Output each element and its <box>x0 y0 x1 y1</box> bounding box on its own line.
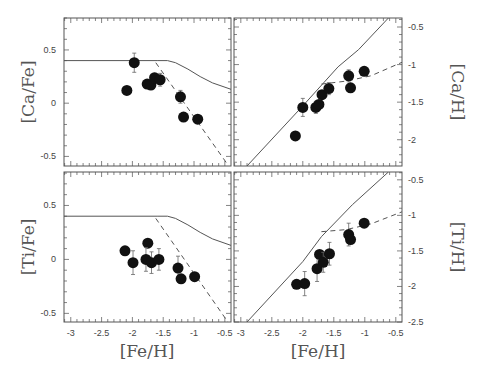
data-point <box>359 66 370 77</box>
data-point <box>299 278 310 289</box>
panel-top-left: 0.50-0.5 <box>40 18 231 166</box>
data-point <box>175 91 186 102</box>
y-tick-label: -0.5 <box>40 151 56 161</box>
y-tick-label: 0 <box>51 98 56 108</box>
x-tick-label: -0.5 <box>217 328 233 338</box>
data-point <box>153 254 164 265</box>
model-dashed-line <box>156 218 228 322</box>
y-tick-label: -1.5 <box>408 97 424 107</box>
x-tick-label: -3 <box>67 328 75 338</box>
y-tick-label: -0.5 <box>40 308 56 318</box>
x-tick-label: -1.5 <box>155 328 171 338</box>
x-tick-label: -0.5 <box>388 328 404 338</box>
panel-bottom-left: 0.50-0.5-3-2.5-2-1.5-1-0.5 <box>40 172 232 338</box>
data-point <box>155 74 166 85</box>
figure: 0.50-0.5-0.5-1-1.5-20.50-0.5-3-2.5-2-1.5… <box>0 0 477 376</box>
ylabel-ca-fe: [Ca/Fe] <box>18 60 38 123</box>
y-tick-label: 0.5 <box>43 45 56 55</box>
ylabel-ca-h: [Ca/H] <box>448 64 468 121</box>
data-point <box>178 112 189 123</box>
data-point <box>323 83 334 94</box>
model-solid-line <box>247 172 388 322</box>
y-tick-label: 0 <box>51 254 56 264</box>
x-tick-label: -1 <box>190 328 198 338</box>
data-point <box>290 130 301 141</box>
data-point <box>345 234 356 245</box>
data-point <box>142 238 153 249</box>
y-tick-label: 0.5 <box>43 200 56 210</box>
ylabel-ti-fe: [Ti/Fe] <box>18 219 38 276</box>
plot-frame <box>234 172 402 322</box>
plot-frame <box>64 18 231 166</box>
x-tick-label: -1 <box>361 328 369 338</box>
data-point <box>121 85 132 96</box>
data-point <box>313 99 324 110</box>
data-point <box>192 114 203 125</box>
xlabel-fe-h-left: [Fe/H] <box>120 341 175 361</box>
panels: 0.50-0.5-0.5-1-1.5-20.50-0.5-3-2.5-2-1.5… <box>40 18 423 338</box>
y-tick-label: -0.5 <box>408 175 424 185</box>
y-tick-label: -2 <box>408 135 416 145</box>
y-tick-label: -1 <box>408 210 416 220</box>
xlabel-fe-h-right: [Fe/H] <box>291 341 346 361</box>
data-point <box>324 248 335 259</box>
data-point <box>176 273 187 284</box>
data-point <box>189 271 200 282</box>
ylabel-ti-h: [Ti/H] <box>448 222 468 273</box>
data-point <box>120 245 131 256</box>
y-tick-label: -2 <box>408 281 416 291</box>
x-tick-label: -2 <box>299 328 307 338</box>
x-tick-label: -2 <box>128 328 136 338</box>
y-tick-label: -0.5 <box>408 22 424 32</box>
panel-top-right: -0.5-1-1.5-2 <box>234 18 424 166</box>
panel-bottom-right: -0.5-1-1.5-2-2.5-3-2.5-2-1.5-1-0.5 <box>234 172 424 338</box>
x-tick-label: -2.5 <box>264 328 280 338</box>
x-tick-label: -2.5 <box>94 328 110 338</box>
data-point <box>297 102 308 113</box>
x-tick-label: -3 <box>237 328 245 338</box>
y-tick-label: -2.5 <box>408 317 424 327</box>
y-tick-label: -1 <box>408 60 416 70</box>
data-point <box>359 218 370 229</box>
data-point <box>173 263 184 274</box>
model-dashed-line <box>156 63 228 165</box>
data-point <box>343 70 354 81</box>
y-tick-label: -1.5 <box>408 246 424 256</box>
data-point <box>129 57 140 68</box>
data-point <box>128 257 139 268</box>
data-point <box>345 82 356 93</box>
x-tick-label: -1.5 <box>326 328 342 338</box>
